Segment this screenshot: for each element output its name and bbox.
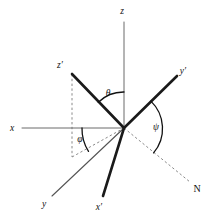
line-of-nodes-axis: [124, 128, 190, 182]
theta-arc: [98, 92, 124, 102]
z-prime-axis-line: [72, 74, 124, 128]
z-prime-axis-label: z′: [56, 60, 64, 70]
z-axis-label: z: [119, 6, 124, 16]
phi-angle-label: φ: [77, 134, 82, 144]
theta-angle-label: θ: [106, 88, 111, 98]
angle-arcs: [82, 92, 163, 153]
euler-angles-diagram: z z′ y′ x y x′ N θ φ ψ: [0, 0, 213, 217]
phi-arc: [82, 128, 89, 151]
x-prime-axis-label: x′: [95, 202, 103, 212]
line-of-nodes-label: N: [193, 183, 200, 194]
fixed-frame-axes: [22, 22, 124, 196]
construction-lines: [72, 74, 124, 157]
angle-labels: θ φ ψ: [77, 88, 160, 144]
y-prime-axis-line: [124, 76, 177, 128]
y-prime-axis-label: y′: [179, 66, 187, 76]
psi-angle-label: ψ: [153, 122, 160, 132]
euler-angles-figure: z z′ y′ x y x′ N θ φ ψ: [0, 0, 213, 217]
x-axis-label: x: [9, 123, 15, 133]
y-axis-label: y: [41, 199, 47, 209]
